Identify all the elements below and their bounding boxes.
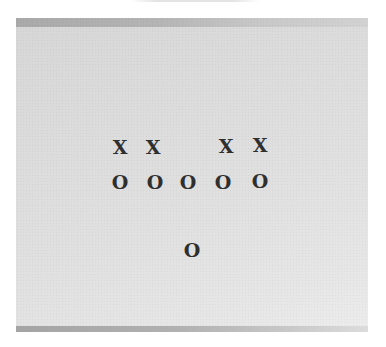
defender-x-4: X [253, 136, 268, 155]
defender-x-1: X [113, 138, 128, 157]
lineman-o-5: O [252, 172, 269, 191]
defender-x-2: X [146, 138, 161, 157]
back-o: O [184, 241, 201, 260]
lineman-o-4: O [215, 173, 232, 192]
defender-x-3: X [219, 137, 234, 156]
lineman-o-1: O [112, 173, 129, 192]
lineman-o-3: O [180, 173, 197, 192]
lineman-o-2: O [147, 173, 164, 192]
paper-board: X X X X O O O O O O [16, 18, 368, 332]
top-caption-fragment [130, 0, 260, 2]
